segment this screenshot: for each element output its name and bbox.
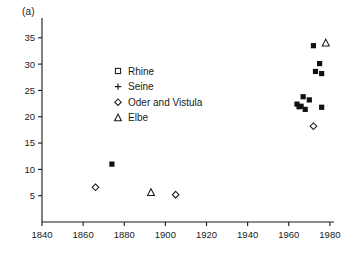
legend-marker-elbe — [115, 114, 122, 121]
data-point-rhine — [303, 107, 308, 112]
data-point-elbe — [147, 189, 154, 196]
y-tick-label: 35 — [24, 32, 35, 43]
data-point-rhine — [301, 94, 306, 99]
data-point-rhine — [311, 43, 316, 48]
data-point-elbe — [322, 39, 329, 46]
data-point-rhine — [317, 61, 322, 66]
legend-label-seine: Seine — [128, 81, 154, 92]
x-tick-label: 1940 — [237, 229, 258, 240]
data-point-rhine — [319, 71, 324, 76]
x-tick-label: 1920 — [196, 229, 217, 240]
x-tick-label: 1960 — [278, 229, 299, 240]
data-point-oder-and-vistula — [172, 191, 179, 198]
data-point-rhine — [307, 97, 312, 102]
x-tick-label: 1980 — [319, 229, 340, 240]
data-point-oder-and-vistula — [310, 123, 317, 130]
scatter-plot: 5101520253035184018601880190019201940196… — [0, 0, 360, 269]
data-point-rhine — [109, 162, 114, 167]
y-tick-label: 30 — [24, 59, 35, 70]
y-tick-label: 5 — [30, 190, 35, 201]
y-tick-label: 10 — [24, 164, 35, 175]
legend-marker-oder-and-vistula — [115, 99, 121, 105]
x-tick-label: 1880 — [114, 229, 135, 240]
legend-marker-seine — [115, 83, 121, 89]
x-tick-label: 1900 — [155, 229, 176, 240]
data-point-rhine — [313, 69, 318, 74]
y-tick-label: 25 — [24, 85, 35, 96]
legend-label-elbe: Elbe — [128, 112, 148, 123]
x-tick-label: 1860 — [73, 229, 94, 240]
figure-panel: (a) 510152025303518401860188019001920194… — [0, 0, 360, 269]
y-tick-label: 15 — [24, 137, 35, 148]
legend-marker-rhine — [115, 68, 120, 73]
legend-label-oder-and-vistula: Oder and Vistula — [128, 97, 203, 108]
data-point-rhine — [319, 105, 324, 110]
y-tick-label: 20 — [24, 111, 35, 122]
data-point-oder-and-vistula — [92, 184, 99, 191]
x-tick-label: 1840 — [31, 229, 52, 240]
legend-label-rhine: Rhine — [128, 66, 155, 77]
axis-spine — [42, 18, 334, 222]
